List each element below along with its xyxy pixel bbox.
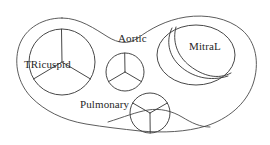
tricuspid-valve-label: TRicuspid: [24, 59, 71, 70]
base-notch-contour: [108, 109, 210, 127]
aortic-cusp-line-left: [109, 72, 125, 82]
aortic-cusp-line-right: [125, 72, 141, 82]
pulmonary-valve-label: Pulmonary: [80, 99, 129, 110]
mitral-valve-label: MitraL: [189, 41, 221, 52]
aortic-valve-label: Aortic: [118, 33, 147, 44]
heart-valve-diagram: TRicuspid Aortic MitraL Pulmonary: [0, 0, 270, 145]
pulmonary-cusp-line-upper-right: [150, 103, 167, 113]
valve-diagram-svg: [0, 0, 270, 145]
